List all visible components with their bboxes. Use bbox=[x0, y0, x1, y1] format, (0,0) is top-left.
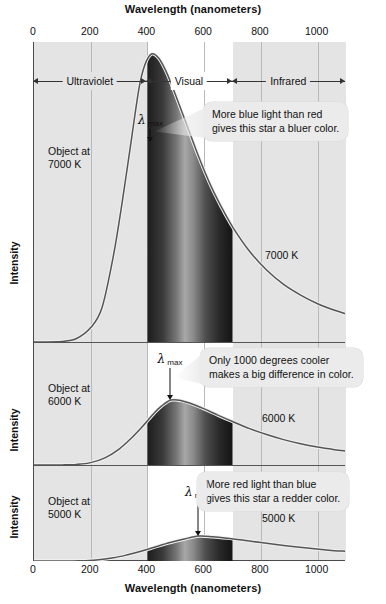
bottom-tick-row: 02004006008001000 bbox=[0, 563, 386, 577]
lambda-max-arrowhead bbox=[147, 137, 153, 142]
callout-5000: More red light than blue gives this star… bbox=[197, 472, 349, 511]
tick-label-400: 400 bbox=[138, 25, 156, 37]
bottom-axis-title: Wavelength (nanometers) bbox=[0, 582, 386, 594]
region-marker-infrared: Infrared bbox=[232, 72, 345, 90]
lambda-max-label: λ max bbox=[158, 352, 183, 366]
panel-separator-2 bbox=[34, 465, 345, 466]
lambda-max-arrowhead bbox=[195, 531, 201, 536]
callout-7000: More blue light than red gives this star… bbox=[203, 102, 348, 141]
y-axis-label-7000: Intensity bbox=[8, 237, 20, 289]
arrow-left-icon bbox=[33, 78, 38, 84]
lambda-max-stem bbox=[150, 129, 151, 137]
tick-label-600: 600 bbox=[194, 25, 212, 37]
object-label-6000: Object at 6000 K bbox=[48, 382, 90, 408]
region-label: Infrared bbox=[266, 72, 310, 90]
region-marker-visual: Visual bbox=[146, 72, 231, 90]
lambda-max-arrowhead bbox=[167, 395, 173, 400]
region-marker-ultraviolet: Ultraviolet bbox=[33, 72, 146, 90]
tick-label-400: 400 bbox=[138, 563, 156, 575]
y-axis-label-5000: Intensity bbox=[8, 491, 20, 543]
tick-label-200: 200 bbox=[81, 563, 99, 575]
arrow-right-icon bbox=[340, 78, 345, 84]
arrow-left-icon bbox=[146, 78, 151, 84]
tick-label-0: 0 bbox=[30, 563, 36, 575]
top-tick-row: 02004006008001000 bbox=[0, 25, 386, 39]
object-label-5000: Object at 5000 K bbox=[48, 495, 90, 521]
blackbody-chart: Wavelength (nanometers) 0200400600800100… bbox=[0, 0, 386, 604]
region-label: Ultraviolet bbox=[62, 72, 117, 90]
tick-label-800: 800 bbox=[251, 25, 269, 37]
callout-6000: Only 1000 degrees cooler makes a big dif… bbox=[200, 348, 363, 387]
curve-label-5000: 5000 K bbox=[262, 512, 295, 524]
tick-label-600: 600 bbox=[194, 563, 212, 575]
top-axis-title: Wavelength (nanometers) bbox=[0, 3, 386, 15]
region-label: Visual bbox=[171, 72, 207, 90]
y-axis-label-6000: Intensity bbox=[8, 404, 20, 456]
tick-label-200: 200 bbox=[81, 25, 99, 37]
lambda-max-stem bbox=[169, 368, 170, 395]
tick-label-800: 800 bbox=[251, 563, 269, 575]
tick-label-1000: 1000 bbox=[305, 25, 328, 37]
curve-label-6000: 6000 K bbox=[262, 412, 295, 424]
panel-separator-1 bbox=[34, 342, 345, 343]
lambda-max-label: λ max bbox=[138, 113, 163, 127]
tick-label-0: 0 bbox=[30, 25, 36, 37]
tick-label-1000: 1000 bbox=[305, 563, 328, 575]
arrow-left-icon bbox=[232, 78, 237, 84]
object-label-7000: Object at 7000 K bbox=[48, 145, 90, 171]
spectrum-region-bar: UltravioletVisualInfrared bbox=[33, 72, 345, 90]
curve-label-7000: 7000 K bbox=[265, 249, 298, 261]
